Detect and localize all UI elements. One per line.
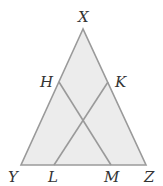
label-y: Y xyxy=(8,168,20,186)
label-h: H xyxy=(39,73,54,91)
label-k: K xyxy=(114,73,127,91)
label-x: X xyxy=(77,8,90,26)
label-l: L xyxy=(47,168,58,186)
label-z: Z xyxy=(143,168,155,186)
label-m: M xyxy=(103,168,120,186)
triangle-diagram: X H K Y L M Z xyxy=(0,0,163,186)
triangle-xyz xyxy=(21,29,146,165)
